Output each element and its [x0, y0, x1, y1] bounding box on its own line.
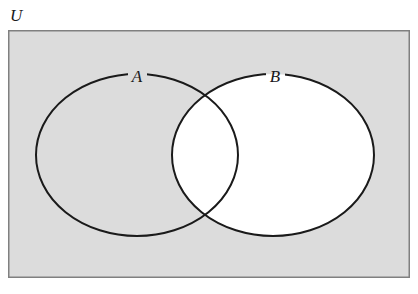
set-b-label: B [270, 67, 281, 86]
universal-set-label: U [10, 6, 24, 25]
set-a-label: A [131, 67, 143, 86]
venn-diagram-canvas: U A B [0, 0, 418, 294]
venn-diagram-figure: U A B [0, 0, 418, 294]
